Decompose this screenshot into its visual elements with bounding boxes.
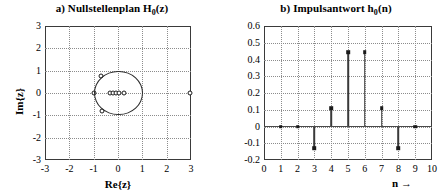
stem-marker — [380, 106, 384, 110]
stem-marker — [279, 125, 283, 129]
y-tick-label: 0.1 — [236, 105, 260, 115]
stem-line — [347, 52, 349, 127]
y-tick-label: 0.3 — [236, 71, 260, 81]
x-tick-label: 3 — [189, 164, 194, 174]
y-tick-label: 1 — [23, 66, 41, 76]
panel-a-title: a) Nullstellenplan H0(z) — [0, 2, 224, 17]
stem-line — [364, 52, 366, 127]
y-tick-label: 2 — [23, 43, 41, 53]
x-tick-label: 8 — [396, 164, 401, 174]
stem-line — [398, 127, 400, 149]
zero-marker — [187, 91, 192, 96]
panel-impulsantwort: b) Impulsantwort h0(n) 012345678910 -0.2… — [224, 0, 448, 196]
x-tick-label: 7 — [379, 164, 384, 174]
x-tick-label: -1 — [89, 164, 97, 174]
stem-marker — [397, 146, 401, 150]
y-tick-label: -2 — [23, 133, 41, 143]
stem-marker — [363, 50, 367, 54]
x-tick-label: 10 — [427, 164, 437, 174]
x-tick-label: 9 — [413, 164, 418, 174]
x-tick-label: 5 — [346, 164, 351, 174]
stem-line — [381, 108, 383, 126]
x-axis-label-b: n → — [392, 177, 412, 189]
x-tick-label: 0 — [262, 164, 267, 174]
y-axis-label-a: Im{z} — [13, 88, 25, 115]
y-tick-label: 0.4 — [236, 55, 260, 65]
stem-marker — [313, 146, 317, 150]
y-tick-label: -1 — [23, 110, 41, 120]
y-tick-label: 0 — [236, 122, 260, 132]
x-tick-label: 1 — [278, 164, 283, 174]
y-tick-label: 0.2 — [236, 88, 260, 98]
gridline-horizontal — [45, 48, 191, 49]
x-tick-label: 0 — [116, 164, 121, 174]
unit-circle — [94, 71, 143, 116]
y-tick-label: -3 — [23, 155, 41, 165]
x-tick-label: 2 — [295, 164, 300, 174]
x-tick-label: -2 — [65, 164, 73, 174]
x-tick-label: 3 — [312, 164, 317, 174]
panel-b-title-prefix: b) Impulsantwort h — [280, 2, 374, 14]
y-tick-label: -0.1 — [236, 138, 260, 148]
stem-marker — [329, 106, 333, 110]
gridline-horizontal — [45, 138, 191, 139]
stem-line — [330, 108, 332, 126]
stem-marker — [296, 125, 300, 129]
x-tick-label: -3 — [41, 164, 49, 174]
x-tick-label: 1 — [140, 164, 145, 174]
stem-marker — [413, 125, 417, 129]
gridline-horizontal — [264, 143, 432, 144]
x-axis-label-a: Re{z} — [105, 178, 131, 190]
gridline-horizontal — [45, 115, 191, 116]
panel-a-title-suffix: (z) — [156, 2, 169, 14]
panel-b-title: b) Impulsantwort h0(n) — [224, 2, 448, 17]
stem-marker — [346, 50, 350, 54]
panel-b-title-suffix: (n) — [378, 2, 392, 14]
panel-nullstellenplan: a) Nullstellenplan H0(z) -3-2-10123 -3-2… — [0, 0, 224, 196]
y-tick-label: 0.6 — [236, 21, 260, 31]
stem-line — [314, 127, 316, 149]
y-tick-label: 0.5 — [236, 38, 260, 48]
x-tick-label: 4 — [329, 164, 334, 174]
y-tick-label: 3 — [23, 21, 41, 31]
x-tick-label: 6 — [362, 164, 367, 174]
y-tick-label: -0.2 — [236, 155, 260, 165]
y-tick-label: 0 — [23, 88, 41, 98]
gridline-horizontal — [264, 43, 432, 44]
panel-a-title-prefix: a) Nullstellenplan H — [56, 2, 152, 14]
x-tick-label: 2 — [164, 164, 169, 174]
